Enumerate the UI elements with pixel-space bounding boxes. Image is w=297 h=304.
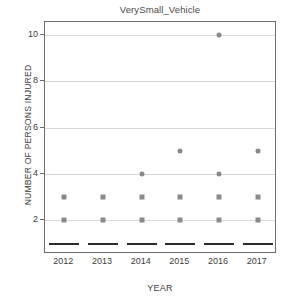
median-line	[243, 243, 273, 245]
median-line	[127, 243, 157, 245]
data-point-marker	[101, 218, 106, 223]
plot-area	[44, 21, 276, 253]
data-point-marker	[139, 171, 144, 176]
y-tick-label: 8	[16, 75, 38, 85]
y-axis-title: NUMBER OF PERSONS INJURED	[23, 45, 33, 225]
gridline	[45, 35, 275, 36]
x-tick-label: 2015	[158, 256, 200, 266]
y-tick-mark	[40, 80, 44, 81]
y-tick-label: 6	[16, 122, 38, 132]
y-tick-label: 4	[16, 168, 38, 178]
x-tick-label: 2016	[197, 256, 239, 266]
y-tick-mark	[40, 173, 44, 174]
x-tick-label: 2017	[236, 256, 278, 266]
y-tick-label: 2	[16, 214, 38, 224]
data-point-marker	[178, 218, 183, 223]
y-tick-mark	[40, 219, 44, 220]
data-point-marker	[101, 195, 106, 200]
data-point-marker	[217, 171, 222, 176]
data-point-marker	[217, 32, 222, 37]
data-point-marker	[178, 195, 183, 200]
data-point-marker	[139, 195, 144, 200]
x-tick-label: 2013	[81, 256, 123, 266]
data-point-marker	[255, 218, 260, 223]
y-tick-mark	[40, 127, 44, 128]
median-line	[49, 243, 79, 245]
gridline	[45, 81, 275, 82]
gridline	[45, 220, 275, 221]
gridline	[45, 128, 275, 129]
chart-title: VerySmall_Vehicle	[44, 4, 276, 15]
data-point-marker	[255, 195, 260, 200]
data-point-marker	[217, 195, 222, 200]
data-point-marker	[255, 148, 260, 153]
data-point-marker	[217, 218, 222, 223]
chart-container: VerySmall_Vehicle NUMBER OF PERSONS INJU…	[0, 0, 297, 304]
x-tick-label: 2012	[42, 256, 84, 266]
median-line	[88, 243, 118, 245]
plot-inner	[45, 22, 275, 252]
x-axis-title: YEAR	[44, 283, 276, 293]
gridline	[45, 174, 275, 175]
median-line	[165, 243, 195, 245]
data-point-marker	[62, 195, 67, 200]
data-point-marker	[178, 148, 183, 153]
y-tick-label: 10	[16, 29, 38, 39]
y-tick-mark	[40, 34, 44, 35]
x-tick-label: 2014	[120, 256, 162, 266]
median-line	[204, 243, 234, 245]
data-point-marker	[62, 218, 67, 223]
data-point-marker	[139, 218, 144, 223]
